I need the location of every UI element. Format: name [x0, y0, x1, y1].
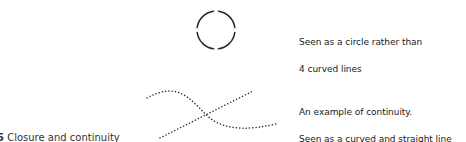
- continuity-description-line: An example of continuity.: [299, 108, 452, 117]
- dotted-straight-line: [160, 91, 253, 138]
- continuity-description-line: Seen as a curved and straight line: [299, 135, 452, 142]
- continuity-lines-icon: [147, 91, 276, 138]
- continuity-description: An example of continuity. Seen as a curv…: [299, 89, 452, 142]
- figure-caption: 5 Closure and continuity: [0, 132, 120, 142]
- closure-circle-icon: [197, 11, 235, 49]
- figure-number: 5: [0, 132, 4, 142]
- closure-description: Seen as a circle rather than 4 curved li…: [299, 19, 422, 84]
- closure-description-line: Seen as a circle rather than: [299, 38, 422, 47]
- closure-description-line: 4 curved lines: [299, 65, 422, 74]
- dotted-curve: [147, 91, 276, 128]
- figure-caption-text: Closure and continuity: [7, 132, 120, 142]
